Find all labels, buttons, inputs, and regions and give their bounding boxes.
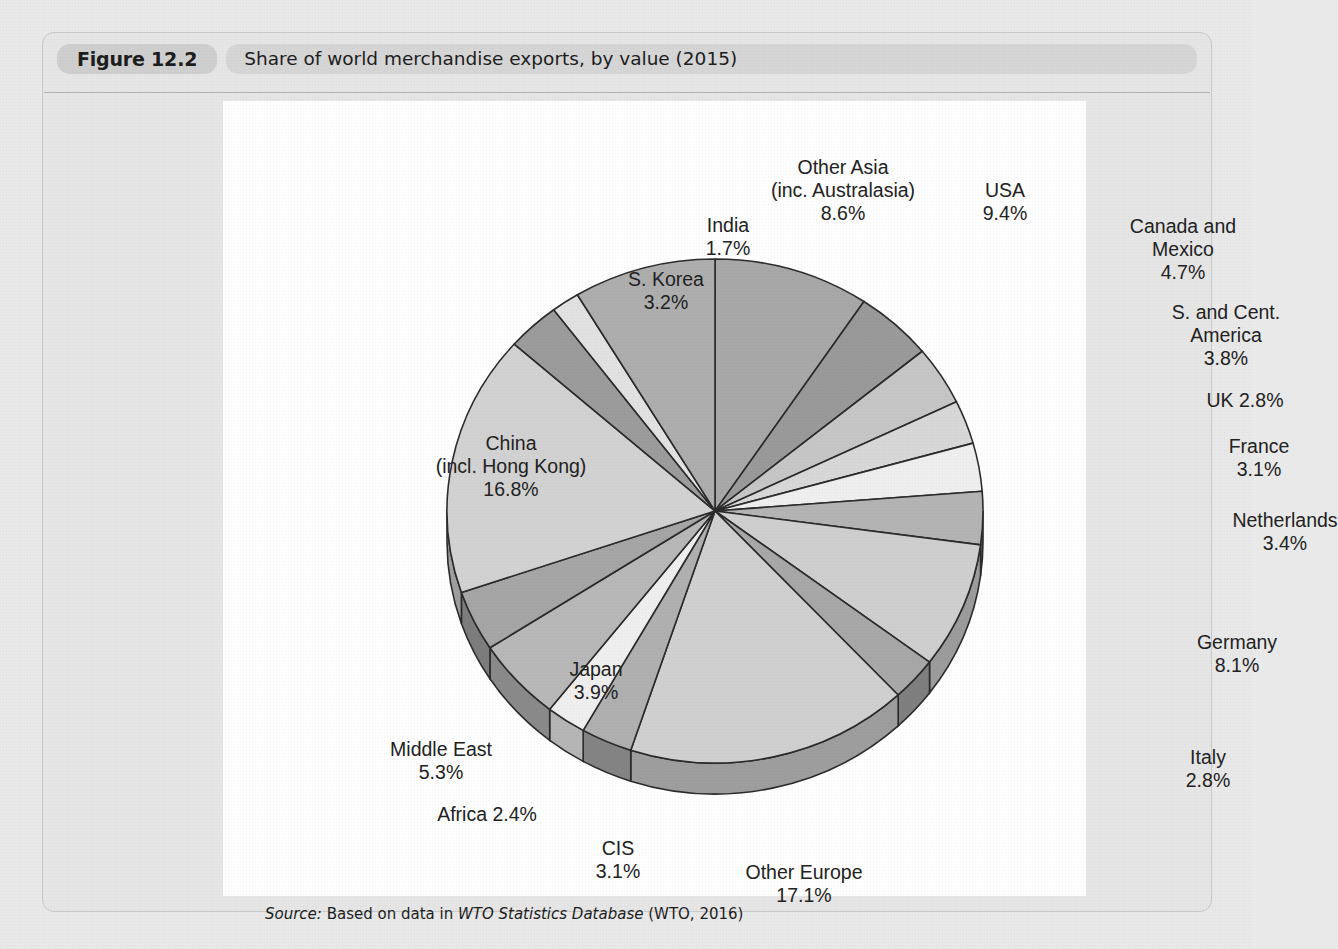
pie-label-uk-line-1: UK 2.8% bbox=[1207, 389, 1284, 412]
pie-label-france-line-2: 3.1% bbox=[1229, 458, 1290, 481]
header-divider bbox=[44, 92, 1210, 93]
pie-label-middle-east: Middle East5.3% bbox=[390, 738, 492, 784]
pie-label-netherlands: Netherlands3.4% bbox=[1232, 509, 1337, 555]
pie-label-france: France3.1% bbox=[1229, 435, 1290, 481]
pie-label-s-cent-america-line-3: 3.8% bbox=[1172, 347, 1280, 370]
pie-label-uk: UK 2.8% bbox=[1207, 389, 1284, 412]
pie-label-canada-mexico-line-1: Canada and bbox=[1130, 215, 1236, 238]
pie-label-india-line-2: 1.7% bbox=[706, 237, 750, 260]
pie-slices bbox=[447, 259, 983, 763]
pie-label-other-asia-line-3: 8.6% bbox=[771, 202, 915, 225]
pie-label-china-line-2: (incl. Hong Kong) bbox=[436, 455, 587, 478]
pie-label-other-europe-line-1: Other Europe bbox=[745, 861, 862, 884]
pie-label-italy-line-2: 2.8% bbox=[1186, 769, 1230, 792]
pie-label-germany-line-2: 8.1% bbox=[1197, 654, 1277, 677]
pie-label-s-cent-america-line-1: S. and Cent. bbox=[1172, 301, 1280, 324]
figure-header: Figure 12.2 Share of world merchandise e… bbox=[43, 33, 1211, 91]
pie-label-india-line-1: India bbox=[706, 214, 750, 237]
pie-label-s-cent-america-line-2: America bbox=[1172, 324, 1280, 347]
pie-label-other-asia-line-1: Other Asia bbox=[771, 156, 915, 179]
pie-label-usa: USA9.4% bbox=[983, 179, 1027, 225]
pie-label-china-line-1: China bbox=[436, 432, 587, 455]
pie-label-usa-line-2: 9.4% bbox=[983, 202, 1027, 225]
pie-label-india: India1.7% bbox=[706, 214, 750, 260]
pie-label-germany: Germany8.1% bbox=[1197, 631, 1277, 677]
figure-box: Figure 12.2 Share of world merchandise e… bbox=[42, 32, 1212, 912]
pie-label-s-cent-america: S. and Cent.America3.8% bbox=[1172, 301, 1280, 370]
pie-label-germany-line-1: Germany bbox=[1197, 631, 1277, 654]
figure-title: Share of world merchandise exports, by v… bbox=[226, 44, 1197, 74]
pie-label-netherlands-line-1: Netherlands bbox=[1232, 509, 1337, 532]
pie-label-cis: CIS3.1% bbox=[596, 837, 640, 883]
source-title: WTO Statistics Database bbox=[458, 905, 643, 923]
pie-label-other-asia: Other Asia(inc. Australasia)8.6% bbox=[771, 156, 915, 225]
pie-label-s-korea: S. Korea3.2% bbox=[628, 268, 704, 314]
source-keyword: Source: bbox=[265, 905, 322, 923]
pie-label-cis-line-2: 3.1% bbox=[596, 860, 640, 883]
pie-label-netherlands-line-2: 3.4% bbox=[1232, 532, 1337, 555]
pie-label-middle-east-line-2: 5.3% bbox=[390, 761, 492, 784]
pie-chart: Other Asia(inc. Australasia)8.6%USA9.4%I… bbox=[223, 101, 1086, 896]
pie-label-japan-line-2: 3.9% bbox=[569, 681, 622, 704]
pie-label-middle-east-line-1: Middle East bbox=[390, 738, 492, 761]
chart-panel: Other Asia(inc. Australasia)8.6%USA9.4%I… bbox=[223, 101, 1086, 896]
figure-number-badge: Figure 12.2 bbox=[57, 44, 217, 74]
pie-label-africa-line-1: Africa 2.4% bbox=[437, 803, 537, 826]
pie-label-japan-line-1: Japan bbox=[569, 658, 622, 681]
pie-label-france-line-1: France bbox=[1229, 435, 1290, 458]
pie-label-other-europe: Other Europe17.1% bbox=[745, 861, 862, 907]
pie-label-other-asia-line-2: (inc. Australasia) bbox=[771, 179, 915, 202]
pie-label-japan: Japan3.9% bbox=[569, 658, 622, 704]
pie-label-canada-mexico: Canada andMexico4.7% bbox=[1130, 215, 1236, 284]
pie-label-s-korea-line-2: 3.2% bbox=[628, 291, 704, 314]
pie-label-canada-mexico-line-3: 4.7% bbox=[1130, 261, 1236, 284]
pie-label-other-europe-line-2: 17.1% bbox=[745, 884, 862, 907]
pie-label-canada-mexico-line-2: Mexico bbox=[1130, 238, 1236, 261]
source-text-after: (WTO, 2016) bbox=[643, 905, 743, 923]
pie-chart-svg bbox=[223, 101, 1086, 896]
pie-label-china-line-3: 16.8% bbox=[436, 478, 587, 501]
pie-label-s-korea-line-1: S. Korea bbox=[628, 268, 704, 291]
source-text-before: Based on data in bbox=[322, 905, 458, 923]
pie-label-italy-line-1: Italy bbox=[1186, 746, 1230, 769]
pie-label-africa: Africa 2.4% bbox=[437, 803, 537, 826]
pie-label-usa-line-1: USA bbox=[983, 179, 1027, 202]
source-note: Source: Based on data in WTO Statistics … bbox=[265, 905, 743, 923]
pie-label-cis-line-1: CIS bbox=[596, 837, 640, 860]
pie-label-china: China(incl. Hong Kong)16.8% bbox=[436, 432, 587, 501]
pie-label-italy: Italy2.8% bbox=[1186, 746, 1230, 792]
